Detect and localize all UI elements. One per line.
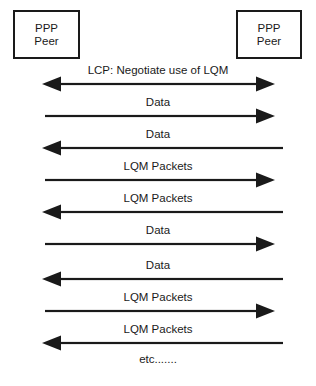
message-label: LQM Packets xyxy=(0,159,316,173)
message-arrow xyxy=(0,335,316,352)
peer-box-left: PPP Peer xyxy=(13,10,80,59)
message-row: LCP: Negotiate use of LQM xyxy=(0,63,316,93)
message-label: LQM Packets xyxy=(0,322,316,336)
arrowhead-left xyxy=(42,77,61,92)
peer-left-line1: PPP xyxy=(35,22,58,35)
arrowhead-right xyxy=(256,109,275,124)
arrowhead-right xyxy=(256,304,275,319)
peer-box-right: PPP Peer xyxy=(236,10,302,59)
message-row: Data xyxy=(0,258,316,288)
arrowhead-left xyxy=(42,141,61,156)
message-row: Data xyxy=(0,223,316,253)
message-arrow xyxy=(0,76,316,93)
message-row: Data xyxy=(0,127,316,157)
message-arrow xyxy=(0,140,316,157)
ppp-lqm-sequence-diagram: PPP Peer PPP Peer LCP: Negotiate use of … xyxy=(0,0,316,386)
arrowhead-right xyxy=(256,77,275,92)
message-arrow xyxy=(0,303,316,320)
peer-right-line2: Peer xyxy=(257,35,281,48)
peer-left-line2: Peer xyxy=(34,35,58,48)
message-arrow xyxy=(0,271,316,288)
message-label: LQM Packets xyxy=(0,290,316,304)
arrowhead-right xyxy=(256,237,275,252)
message-row: LQM Packets xyxy=(0,290,316,320)
message-label: Data xyxy=(0,258,316,272)
arrowhead-left xyxy=(42,272,61,287)
etc-label: etc....... xyxy=(0,353,316,365)
message-arrow xyxy=(0,108,316,125)
arrowhead-left xyxy=(42,205,61,220)
arrowhead-right xyxy=(256,173,275,188)
message-label: LCP: Negotiate use of LQM xyxy=(0,63,316,77)
message-arrow xyxy=(0,236,316,253)
message-label: LQM Packets xyxy=(0,191,316,205)
message-label: Data xyxy=(0,223,316,237)
message-arrow xyxy=(0,204,316,221)
peer-right-line1: PPP xyxy=(257,22,280,35)
arrowhead-left xyxy=(42,336,61,351)
message-row: LQM Packets xyxy=(0,191,316,221)
message-row: Data xyxy=(0,95,316,125)
message-row: LQM Packets xyxy=(0,322,316,352)
message-label: Data xyxy=(0,127,316,141)
message-label: Data xyxy=(0,95,316,109)
message-arrow xyxy=(0,172,316,189)
message-row: LQM Packets xyxy=(0,159,316,189)
